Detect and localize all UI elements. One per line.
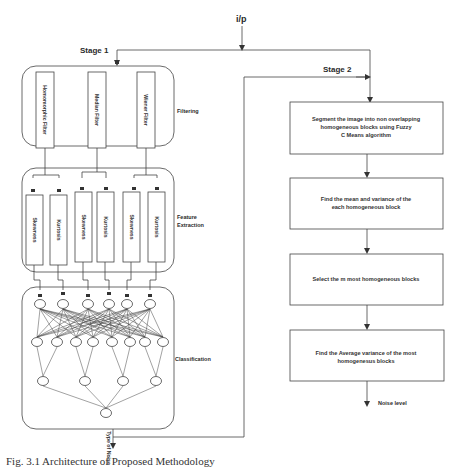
neuron-node — [38, 377, 49, 386]
neural-network — [32, 300, 169, 418]
neuron-node — [125, 338, 136, 347]
feature-label-5: Skewness — [129, 214, 135, 239]
feature-label-2: Kurtosis — [56, 219, 62, 240]
step4-line2: homogenesus blocks — [337, 358, 394, 364]
neuron-node — [83, 300, 94, 309]
neuron-node — [88, 338, 99, 347]
stage1-label: Stage 1 — [80, 46, 109, 55]
filter-label-median: Median Filter — [94, 94, 100, 126]
stage2-label: Stage 2 — [323, 65, 352, 74]
step4-line1: Find the Average variance of the most — [316, 350, 417, 356]
neuron-node — [80, 377, 91, 386]
feature-label-line2: Extraction — [177, 222, 205, 228]
feature-label-4: Kurtosis — [103, 216, 109, 237]
feature-label-6: Kurtosis — [154, 216, 160, 237]
neuron-node — [35, 300, 46, 309]
architecture-diagram: i/p Stage 1 Stage 2 Filtering Feature Ex… — [0, 0, 462, 469]
step1-line2: homogeneous blocks using Fuzzy — [320, 124, 412, 130]
neuron-node — [101, 409, 112, 418]
filter-label-homomorphic: Homomorphic Filter — [42, 85, 48, 134]
neuron-node — [71, 338, 82, 347]
neuron-node — [118, 377, 129, 386]
neuron-node — [52, 338, 63, 347]
neuron-node — [32, 338, 43, 347]
step1-line1: Segment the image into non overlapping — [312, 116, 421, 122]
figure-caption: Fig. 3.1 Architecture of Proposed Method… — [6, 455, 215, 467]
neuron-node — [151, 377, 162, 386]
step3-line1: Select the m most homogeneous blocks — [313, 276, 420, 282]
feature-label-line1: Feature — [177, 214, 197, 220]
neuron-node — [122, 300, 133, 309]
neuron-node — [145, 300, 156, 309]
filter-label-wiener: Wiener Filter — [143, 94, 149, 125]
noise-level-label: Noise level — [378, 400, 407, 406]
step2-line2: each homogeneous block — [332, 204, 402, 210]
neuron-node — [58, 300, 69, 309]
feature-label-1: Skewness — [32, 217, 38, 242]
neuron-node — [107, 338, 118, 347]
feature-label-3: Skewness — [81, 214, 87, 239]
filtering-label: Filtering — [177, 108, 199, 114]
neuron-node — [140, 338, 151, 347]
neuron-node — [158, 338, 169, 347]
input-label: i/p — [236, 14, 247, 24]
neuron-node — [104, 300, 115, 309]
step2-line1: Find the mean and variance of the — [321, 196, 411, 202]
classification-label: Classification — [175, 356, 211, 362]
step1-line3: C Means algorithm — [341, 132, 391, 138]
